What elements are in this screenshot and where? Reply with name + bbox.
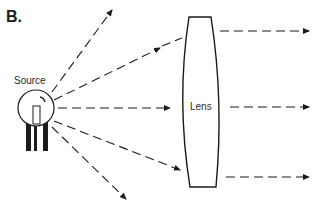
- lens-label: Lens: [190, 101, 212, 112]
- parallel-rays: [220, 31, 309, 177]
- diverging-rays: [52, 10, 180, 199]
- lens-diagram: B. Lens Source: [0, 0, 318, 212]
- ray-to-lens-top: [162, 38, 182, 46]
- ray-down-shallow: [54, 121, 180, 170]
- panel-label: B.: [6, 8, 22, 25]
- ray-up-steep: [52, 10, 112, 92]
- source-label: Source: [14, 75, 46, 86]
- ray-up-shallow: [54, 48, 160, 100]
- light-bulb-icon: [18, 90, 54, 151]
- ray-down-steep: [52, 127, 126, 199]
